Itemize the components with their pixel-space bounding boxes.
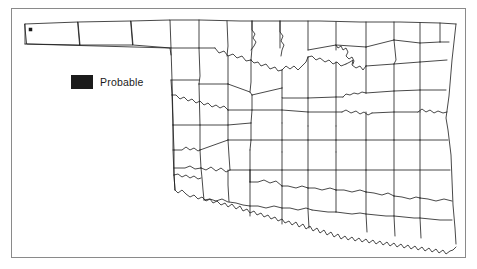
legend-label: Probable [100,77,144,88]
map-legend: Probable [71,75,144,89]
county-borders-row3 [172,84,447,140]
county-borders-row5 [174,140,450,198]
county-borders-row4 [173,112,448,152]
county-borders-row2 [171,48,447,98]
oklahoma-county-map [0,0,477,269]
county-borders-row6 [250,170,452,201]
filled-square-icon [71,75,93,89]
panhandle-counties [25,20,171,48]
county-borders-southwest [174,168,312,228]
figure-canvas: Probable [0,0,477,269]
county-borders-northeast-irregular [251,21,354,64]
state-outline [25,20,456,254]
county-borders-southeast [312,190,452,238]
